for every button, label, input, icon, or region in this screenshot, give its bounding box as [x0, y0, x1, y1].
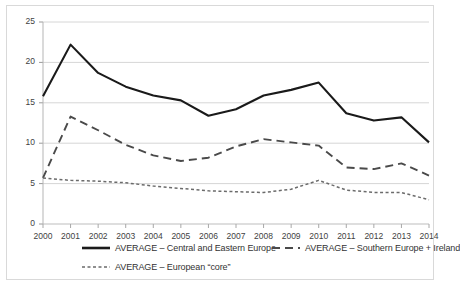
- series-line-2: [43, 178, 429, 200]
- plot-area: 0510152025: [7, 6, 433, 231]
- y-tick-label: 20: [13, 56, 35, 66]
- legend-swatch-dotted: [82, 262, 110, 272]
- y-tick-label: 5: [13, 178, 35, 188]
- legend-entry-central-eastern-europe: AVERAGE – Central and Eastern Europe: [82, 240, 276, 256]
- legend-swatch-dashed: [272, 243, 300, 253]
- y-tick-label: 0: [13, 218, 35, 228]
- legend-label-central-eastern-europe: AVERAGE – Central and Eastern Europe: [115, 243, 276, 253]
- x-tick-marks-group: [43, 224, 429, 228]
- chart-container: 0510152025 20002001200220032004200520062…: [6, 5, 434, 280]
- chart-legend: AVERAGE – Central and Eastern Europe AVE…: [14, 240, 426, 276]
- gridlines-group: [43, 22, 429, 224]
- legend-label-southern-europe-ireland: AVERAGE – Southern Europe + Ireland: [305, 243, 460, 253]
- y-tick-label: 15: [13, 97, 35, 107]
- series-lines-group: [43, 45, 429, 200]
- axes-group: [39, 22, 43, 224]
- legend-label-european-core: AVERAGE – European “core”: [115, 262, 230, 272]
- chart-svg: [7, 6, 433, 231]
- legend-entry-southern-europe-ireland: AVERAGE – Southern Europe + Ireland: [272, 240, 460, 256]
- legend-swatch-solid: [82, 243, 110, 253]
- y-tick-label: 25: [13, 16, 35, 26]
- series-line-0: [43, 45, 429, 143]
- legend-row-1: AVERAGE – Central and Eastern Europe AVE…: [14, 240, 426, 256]
- y-tick-label: 10: [13, 137, 35, 147]
- series-line-1: [43, 117, 429, 178]
- legend-entry-european-core: AVERAGE – European “core”: [82, 259, 230, 275]
- legend-row-2: AVERAGE – European “core”: [14, 259, 426, 275]
